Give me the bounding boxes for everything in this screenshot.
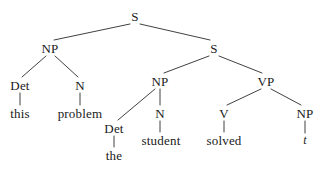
tree-node-w-trace: t [303,134,307,146]
tree-branch-e-np-det [22,56,46,77]
tree-node-v-solved: V [219,107,229,120]
tree-branch-e-np-n [55,56,78,77]
tree-node-np-topic: NP [41,42,58,55]
tree-branch-e-npsubj-det [118,89,155,120]
tree-branch-e-root-s [140,24,210,40]
tree-branch-e-s-vp [219,56,262,73]
tree-branch-e-vp-v [227,89,261,105]
tree-node-det-this: Det [10,79,29,92]
tree-node-n-problem: N [75,79,85,92]
tree-node-w-solved: solved [206,134,241,147]
tree-node-np-subject: NP [151,75,168,88]
tree-node-w-this: this [10,107,30,120]
tree-node-vp: VP [257,75,274,88]
tree-node-s-root: S [131,10,138,23]
syntax-tree-figure: SNPSDetNNPVPthisproblemNVNPDetstudentsol… [0,0,325,170]
tree-branch-e-s-np [164,56,209,73]
tree-node-s-embedded: S [210,42,217,55]
tree-branch-e-root-np [54,24,130,40]
tree-node-det-the: Det [104,122,123,135]
tree-node-n-student: N [155,107,165,120]
tree-node-np-object: NP [296,107,313,120]
tree-node-w-the: the [106,149,122,162]
tree-node-w-student: student [142,134,181,147]
tree-node-w-problem: problem [58,107,103,120]
tree-branch-e-vp-np [271,89,301,105]
